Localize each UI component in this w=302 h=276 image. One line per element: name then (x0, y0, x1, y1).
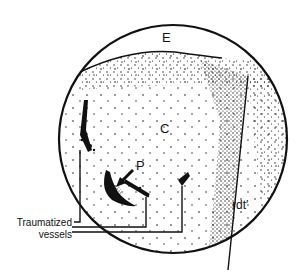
label-rdt: rdt′ (232, 198, 249, 212)
label-traumatized: Traumatized (17, 217, 72, 228)
label-c: C (160, 121, 169, 136)
diagram-figure: E C P rdt′ Traumatized vessels (0, 0, 302, 276)
label-vessels: vessels (39, 229, 72, 240)
cornea-region (40, 51, 300, 276)
label-p: P (136, 158, 145, 173)
label-e: E (162, 30, 171, 45)
